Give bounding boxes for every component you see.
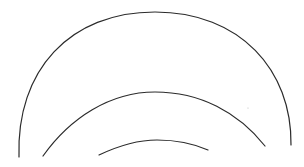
- arcs-diagram: [0, 0, 304, 167]
- arcs-svg: [0, 0, 304, 167]
- speck-dot: [247, 107, 248, 108]
- background: [0, 0, 304, 167]
